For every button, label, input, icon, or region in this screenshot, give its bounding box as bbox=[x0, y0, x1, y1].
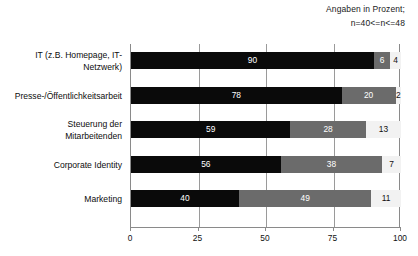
bar-segment: 59 bbox=[131, 121, 290, 138]
category-labels: IT (z.B. Homepage, IT-Netzwerk)Presse-/Ö… bbox=[0, 44, 126, 227]
x-tick bbox=[130, 227, 131, 231]
bar-segment: 49 bbox=[239, 190, 371, 207]
category-label: IT (z.B. Homepage, IT-Netzwerk) bbox=[0, 50, 122, 73]
bar-segment: 90 bbox=[131, 52, 374, 69]
category-label: Steuerung derMitarbeitenden bbox=[0, 119, 122, 142]
bar-value-label: 28 bbox=[323, 125, 332, 133]
bar-value-label: 40 bbox=[180, 194, 189, 202]
category-label: Marketing bbox=[0, 194, 122, 206]
plot-area: 90647820259281356387404911 bbox=[130, 44, 400, 227]
note-line-sample-size: n=40<=n<=48 bbox=[326, 16, 405, 30]
bar-segment: 28 bbox=[290, 121, 366, 138]
x-tick bbox=[198, 227, 199, 231]
bar-value-label: 7 bbox=[389, 160, 394, 168]
stacked-bar-chart: IT (z.B. Homepage, IT-Netzwerk)Presse-/Ö… bbox=[0, 40, 418, 240]
x-tick bbox=[265, 227, 266, 231]
x-tick-label: 50 bbox=[260, 233, 269, 243]
x-tick-label: 25 bbox=[193, 233, 202, 243]
bar-value-label: 11 bbox=[382, 194, 391, 202]
category-label-line: Mitarbeitenden bbox=[0, 131, 122, 143]
category-label-line: Steuerung der bbox=[0, 119, 122, 131]
bar-segment: 11 bbox=[371, 190, 401, 207]
bar-segment: 4 bbox=[390, 52, 401, 69]
x-tick-label: 100 bbox=[393, 233, 407, 243]
x-axis: 0255075100 bbox=[130, 227, 400, 228]
chart-note: Angaben in Prozent; n=40<=n<=48 bbox=[326, 2, 405, 30]
bar-segment: 7 bbox=[382, 156, 401, 173]
category-label-line: Corporate Identity bbox=[0, 160, 122, 172]
bar-segment: 2 bbox=[396, 87, 401, 104]
bar-row: 404911 bbox=[131, 190, 401, 207]
bar-value-label: 20 bbox=[364, 91, 373, 99]
x-tick-label: 75 bbox=[328, 233, 337, 243]
bar-row: 56387 bbox=[131, 156, 401, 173]
bar-value-label: 78 bbox=[232, 91, 241, 99]
bar-row: 78202 bbox=[131, 87, 401, 104]
bar-segment: 78 bbox=[131, 87, 342, 104]
bar-value-label: 6 bbox=[380, 56, 385, 64]
category-label: Corporate Identity bbox=[0, 160, 122, 172]
bar-segment: 56 bbox=[131, 156, 281, 173]
bar-value-label: 2 bbox=[396, 91, 401, 99]
x-tick bbox=[333, 227, 334, 231]
bar-segment: 38 bbox=[281, 156, 383, 173]
note-line-units: Angaben in Prozent; bbox=[326, 2, 405, 16]
bar-value-label: 59 bbox=[206, 125, 215, 133]
bar-value-label: 4 bbox=[393, 56, 398, 64]
bar-value-label: 56 bbox=[201, 160, 210, 168]
category-label-line: Presse-/Öffentlichkeitsarbeit bbox=[0, 91, 122, 103]
bar-segment: 13 bbox=[366, 121, 401, 138]
x-tick-label: 0 bbox=[128, 233, 133, 243]
bar-value-label: 90 bbox=[248, 56, 257, 64]
category-label-line: Netzwerk) bbox=[0, 62, 122, 74]
bar-segment: 6 bbox=[374, 52, 390, 69]
bar-segment: 20 bbox=[342, 87, 396, 104]
bar-segment: 40 bbox=[131, 190, 239, 207]
x-tick bbox=[400, 227, 401, 231]
category-label-line: IT (z.B. Homepage, IT- bbox=[0, 50, 122, 62]
bar-row: 9064 bbox=[131, 52, 401, 69]
bar-value-label: 49 bbox=[300, 194, 309, 202]
category-label: Presse-/Öffentlichkeitsarbeit bbox=[0, 91, 122, 103]
category-label-line: Marketing bbox=[0, 194, 122, 206]
bar-value-label: 13 bbox=[379, 125, 388, 133]
bar-value-label: 38 bbox=[327, 160, 336, 168]
bar-row: 592813 bbox=[131, 121, 401, 138]
